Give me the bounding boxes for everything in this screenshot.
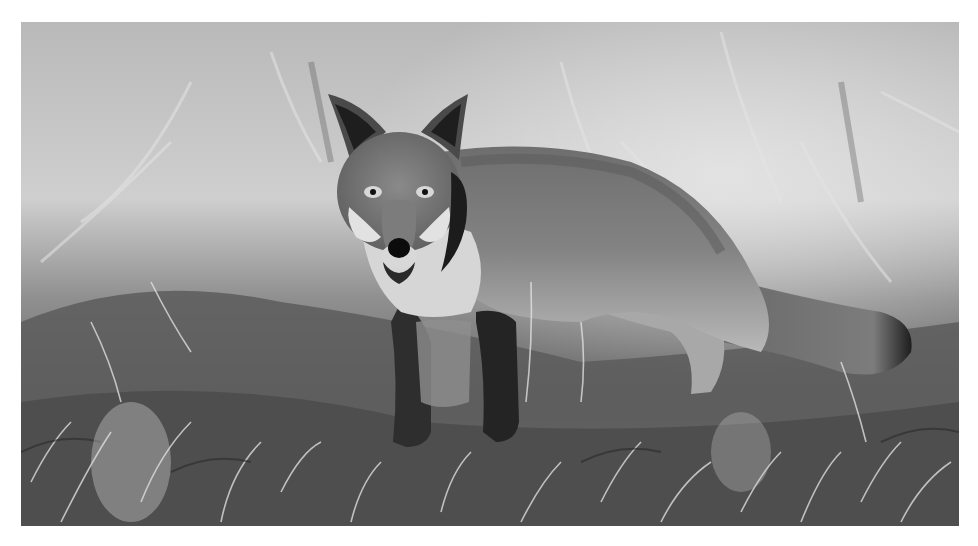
fox-illustration bbox=[21, 22, 959, 526]
fox-nose bbox=[388, 238, 410, 258]
page bbox=[0, 0, 978, 546]
fox-photo bbox=[21, 22, 959, 526]
photo-caption bbox=[21, 534, 959, 544]
